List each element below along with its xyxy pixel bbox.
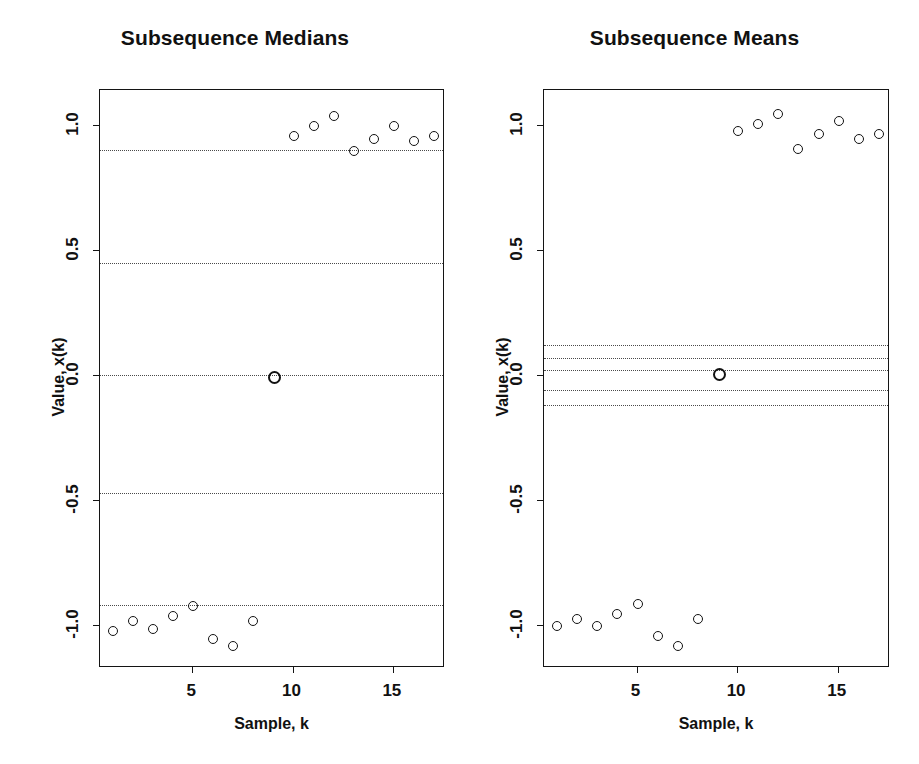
data-point xyxy=(552,621,562,631)
data-point xyxy=(389,121,399,131)
figure-canvas: Subsequence Medians Value, x(k) Sample, … xyxy=(0,0,919,764)
x-axis-tick xyxy=(838,666,839,673)
data-point xyxy=(248,616,258,626)
chart-panel-means: Subsequence Means Value, x(k) Sample, k … xyxy=(470,0,919,764)
x-axis-title-means: Sample, k xyxy=(616,715,816,733)
data-point xyxy=(733,126,743,136)
data-point xyxy=(612,609,622,619)
data-point xyxy=(228,641,238,651)
data-point xyxy=(713,368,726,381)
data-point xyxy=(854,134,864,144)
y-axis-tick xyxy=(93,250,100,251)
data-point xyxy=(208,634,218,644)
data-point xyxy=(753,119,763,129)
data-point xyxy=(592,621,602,631)
reference-line-1 xyxy=(100,263,443,264)
x-axis-tick-label: 10 xyxy=(711,681,761,701)
data-point xyxy=(108,626,118,636)
y-axis-tick xyxy=(537,375,544,376)
y-axis-tick xyxy=(93,125,100,126)
data-point xyxy=(572,614,582,624)
reference-line-3 xyxy=(544,390,888,391)
reference-line-1 xyxy=(544,358,888,359)
y-axis-tick-label: -1.0 xyxy=(507,604,527,644)
data-point xyxy=(409,136,419,146)
data-point xyxy=(793,144,803,154)
data-point xyxy=(814,129,824,139)
x-axis-tick-label: 5 xyxy=(611,681,661,701)
x-axis-tick xyxy=(637,666,638,673)
data-point xyxy=(874,129,884,139)
data-point xyxy=(834,116,844,126)
plot-area-means xyxy=(544,90,888,666)
data-point xyxy=(309,121,319,131)
plot-area-medians xyxy=(100,90,443,666)
x-axis-tick xyxy=(192,666,193,673)
data-point xyxy=(128,616,138,626)
y-axis-tick-label: 0.5 xyxy=(507,229,527,269)
y-axis-tick xyxy=(537,625,544,626)
reference-line-0 xyxy=(544,345,888,346)
data-point xyxy=(349,146,359,156)
y-axis-tick-label: 1.0 xyxy=(63,104,83,144)
data-point xyxy=(369,134,379,144)
reference-line-0 xyxy=(100,150,443,151)
y-axis-tick xyxy=(93,500,100,501)
y-axis-tick-label: 0.5 xyxy=(63,229,83,269)
y-axis-tick-label: -0.5 xyxy=(507,479,527,519)
data-point xyxy=(653,631,663,641)
y-axis-tick xyxy=(537,500,544,501)
plot-frame-means xyxy=(543,89,889,667)
data-point xyxy=(773,109,783,119)
x-axis-tick-label: 10 xyxy=(267,681,317,701)
y-axis-tick xyxy=(93,625,100,626)
data-point xyxy=(148,624,158,634)
x-axis-tick-label: 5 xyxy=(166,681,216,701)
reference-line-3 xyxy=(100,493,443,494)
data-point xyxy=(329,111,339,121)
plot-frame-medians xyxy=(99,89,444,667)
chart-panel-medians: Subsequence Medians Value, x(k) Sample, … xyxy=(0,0,470,764)
reference-line-4 xyxy=(544,405,888,406)
x-axis-tick-label: 15 xyxy=(367,681,417,701)
x-axis-tick-label: 15 xyxy=(812,681,862,701)
data-point xyxy=(633,599,643,609)
reference-line-4 xyxy=(100,605,443,606)
y-axis-tick-label: -1.0 xyxy=(63,604,83,644)
y-axis-tick xyxy=(93,375,100,376)
x-axis-tick xyxy=(293,666,294,673)
y-axis-tick-label: 1.0 xyxy=(507,104,527,144)
data-point xyxy=(693,614,703,624)
data-point xyxy=(168,611,178,621)
y-axis-tick xyxy=(537,125,544,126)
y-axis-tick xyxy=(537,250,544,251)
x-axis-title-medians: Sample, k xyxy=(172,715,372,733)
panel-title-means: Subsequence Means xyxy=(470,26,919,50)
y-axis-tick-label: 0.0 xyxy=(63,354,83,394)
x-axis-tick xyxy=(737,666,738,673)
panel-title-medians: Subsequence Medians xyxy=(0,26,470,50)
data-point xyxy=(289,131,299,141)
y-axis-tick-label: -0.5 xyxy=(63,479,83,519)
data-point xyxy=(188,601,198,611)
data-point xyxy=(673,641,683,651)
data-point xyxy=(268,371,281,384)
x-axis-tick xyxy=(393,666,394,673)
data-point xyxy=(429,131,439,141)
y-axis-tick-label: 0.0 xyxy=(507,354,527,394)
